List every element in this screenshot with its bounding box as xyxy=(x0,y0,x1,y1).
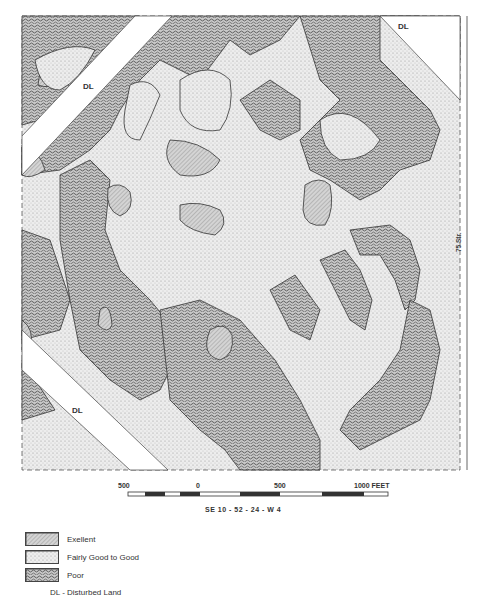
scale-tick: 500 xyxy=(118,482,130,489)
disturbed-land-label: DL xyxy=(83,82,94,91)
legend-label: Fairly Good to Good xyxy=(67,553,139,562)
legend-label: Poor xyxy=(67,571,84,580)
legend-label: Exellent xyxy=(67,535,95,544)
fairly-good-swatch xyxy=(25,550,59,564)
excellent-swatch xyxy=(25,532,59,546)
section-label: SE 10 - 52 - 24 - W 4 xyxy=(205,506,281,513)
scale-tick: 1000 FEET xyxy=(354,482,389,489)
scale-tick: 0 xyxy=(196,482,200,489)
disturbed-land-note: DL - Disturbed Land xyxy=(50,588,121,597)
disturbed-land-label: DL xyxy=(72,406,83,415)
scale-tick: 500 xyxy=(274,482,286,489)
legend-item-fairly-good: Fairly Good to Good xyxy=(25,550,139,564)
scale-bar xyxy=(128,492,388,496)
disturbed-land-label: DL xyxy=(398,22,409,31)
legend-item-poor: Poor xyxy=(25,568,84,582)
street-label: 75 Str. xyxy=(455,232,462,252)
poor-swatch xyxy=(25,568,59,582)
soil-suitability-map xyxy=(0,0,488,604)
legend-item-excellent: Exellent xyxy=(25,532,95,546)
